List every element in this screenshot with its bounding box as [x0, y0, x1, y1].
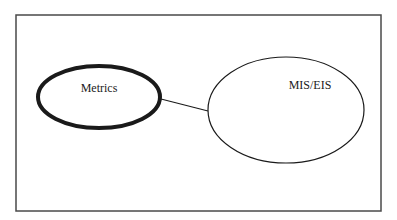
- node-mis-eis: [208, 57, 364, 163]
- diagram-canvas: Metrics MIS/EIS: [0, 0, 397, 220]
- node-mis-eis-label: MIS/EIS: [289, 78, 332, 92]
- node-metrics: [38, 66, 160, 128]
- node-metrics-label: Metrics: [81, 81, 118, 95]
